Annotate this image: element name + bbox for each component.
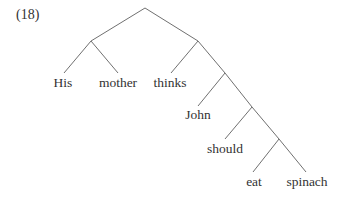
leaf-eat: eat [246,175,262,189]
tree-branch [225,107,252,139]
syntax-tree-figure: (18) His mother thinks John should eat s… [0,0,344,198]
leaf-mother: mother [99,76,137,90]
tree-branch [198,73,225,106]
tree-branch [171,41,198,73]
tree-branch [198,41,225,73]
tree-branch [225,73,252,107]
leaf-thinks: thinks [153,76,186,90]
tree-branch [145,8,198,41]
leaf-should: should [207,142,243,156]
tree-edges [0,0,344,198]
leaf-spinach: spinach [286,175,327,189]
tree-branch [252,107,279,139]
tree-branch [253,139,279,172]
tree-branch [91,41,118,73]
leaf-john: John [185,108,211,122]
leaf-his: His [54,76,73,90]
tree-branch [64,41,91,73]
tree-branch [91,8,145,41]
tree-branches [64,8,306,172]
tree-branch [279,139,306,172]
